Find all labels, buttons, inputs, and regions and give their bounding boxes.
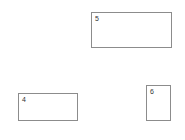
- box-5: 5: [91, 12, 172, 48]
- box-label: 6: [150, 88, 154, 96]
- box-6: 6: [146, 85, 171, 121]
- box-4: 4: [18, 93, 78, 121]
- box-label: 4: [22, 96, 26, 104]
- box-label: 5: [95, 15, 99, 23]
